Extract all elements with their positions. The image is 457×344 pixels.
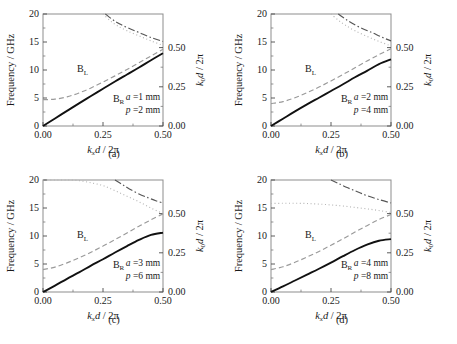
panel-a: 051015200.000.250.500.000.250.50Frequenc… bbox=[0, 0, 228, 170]
y-tick-label: 10 bbox=[29, 230, 39, 241]
x-tick-label: 0.00 bbox=[34, 295, 52, 306]
y-axis-label: Frequency / GHz bbox=[5, 34, 16, 107]
curve-band-dotted bbox=[43, 180, 163, 214]
y-tick-label: 5 bbox=[34, 92, 39, 103]
y-tick-label: 15 bbox=[29, 202, 39, 213]
y2-tick-label: 0.50 bbox=[396, 42, 414, 53]
y-tick-label: 15 bbox=[257, 36, 267, 47]
plot-d: 051015200.000.250.500.000.250.50Frequenc… bbox=[228, 166, 456, 336]
y2-tick-label: 0.00 bbox=[396, 286, 414, 297]
curve-label-bl: BL bbox=[305, 229, 316, 242]
curve-band-dashdot bbox=[338, 14, 391, 41]
y-tick-label: 5 bbox=[34, 258, 39, 269]
panel-caption-b: (b) bbox=[228, 148, 456, 159]
curve-label-br: BR bbox=[113, 93, 125, 106]
y2-tick-label: 0.25 bbox=[168, 247, 186, 258]
y2-axis-label: k0d / 2π bbox=[422, 219, 435, 252]
figure-bottom-caption bbox=[0, 336, 457, 344]
y-tick-label: 20 bbox=[257, 174, 267, 185]
curve-label-bl: BL bbox=[77, 229, 88, 242]
x-tick-label: 0.25 bbox=[322, 129, 340, 140]
x-tick-label: 0.25 bbox=[94, 295, 112, 306]
y-tick-label: 10 bbox=[257, 230, 267, 241]
y-tick-label: 15 bbox=[257, 202, 267, 213]
y-tick-label: 20 bbox=[29, 8, 39, 19]
plot-b: 051015200.000.250.500.000.250.50Frequenc… bbox=[228, 0, 456, 170]
y-tick-label: 10 bbox=[257, 64, 267, 75]
curve-B_R bbox=[43, 53, 163, 126]
param-p-label: p =2 mm bbox=[125, 105, 161, 115]
y-tick-label: 20 bbox=[257, 8, 267, 19]
curve-band-dotted bbox=[331, 14, 391, 46]
curve-band-dashdot bbox=[105, 14, 163, 41]
x-tick-label: 0.00 bbox=[34, 129, 52, 140]
y2-tick-label: 0.50 bbox=[168, 42, 186, 53]
plot-c: 051015200.000.250.500.000.250.50Frequenc… bbox=[0, 166, 228, 336]
plot-a: 051015200.000.250.500.000.250.50Frequenc… bbox=[0, 0, 228, 170]
y2-tick-label: 0.25 bbox=[396, 81, 414, 92]
y-tick-label: 20 bbox=[29, 174, 39, 185]
x-tick-label: 0.00 bbox=[262, 295, 280, 306]
panel-c: 051015200.000.250.500.000.250.50Frequenc… bbox=[0, 166, 228, 336]
param-a-label: a =3 mm bbox=[126, 258, 161, 268]
y2-tick-label: 0.00 bbox=[168, 286, 186, 297]
y2-tick-label: 0.25 bbox=[396, 247, 414, 258]
y2-tick-label: 0.00 bbox=[168, 120, 186, 131]
param-p-label: p =4 mm bbox=[353, 105, 389, 115]
panel-caption-a: (a) bbox=[0, 148, 228, 159]
y2-axis-label: k0d / 2π bbox=[194, 53, 207, 86]
panel-b: 051015200.000.250.500.000.250.50Frequenc… bbox=[228, 0, 456, 170]
y-axis-label: Frequency / GHz bbox=[233, 200, 244, 273]
panel-d: 051015200.000.250.500.000.250.50Frequenc… bbox=[228, 166, 456, 336]
y-tick-label: 10 bbox=[29, 64, 39, 75]
param-p-label: p =8 mm bbox=[353, 271, 389, 281]
y-axis-label: Frequency / GHz bbox=[233, 34, 244, 107]
y2-axis-label: k0d / 2π bbox=[422, 53, 435, 86]
param-a-label: a =2 mm bbox=[354, 92, 389, 102]
param-p-label: p =6 mm bbox=[125, 271, 161, 281]
x-tick-label: 0.00 bbox=[262, 129, 280, 140]
y-axis-label: Frequency / GHz bbox=[5, 200, 16, 273]
curve-label-br: BR bbox=[341, 259, 353, 272]
curve-label-bl: BL bbox=[77, 63, 88, 76]
figure-container: 051015200.000.250.500.000.250.50Frequenc… bbox=[0, 0, 457, 344]
y2-axis-label: k0d / 2π bbox=[194, 219, 207, 252]
y-tick-label: 5 bbox=[262, 258, 267, 269]
param-a-label: a =1 mm bbox=[126, 92, 161, 102]
y2-tick-label: 0.50 bbox=[168, 208, 186, 219]
y2-tick-label: 0.25 bbox=[168, 81, 186, 92]
panel-caption-c: (c) bbox=[0, 314, 228, 325]
param-a-label: a =4 mm bbox=[354, 258, 389, 268]
curve-label-bl: BL bbox=[305, 63, 316, 76]
x-tick-label: 0.25 bbox=[94, 129, 112, 140]
y-tick-label: 5 bbox=[262, 92, 267, 103]
curve-label-br: BR bbox=[341, 93, 353, 106]
y-tick-label: 15 bbox=[29, 36, 39, 47]
x-tick-label: 0.25 bbox=[322, 295, 340, 306]
curve-band-dotted bbox=[271, 203, 391, 212]
y2-tick-label: 0.50 bbox=[396, 208, 414, 219]
curve-label-br: BR bbox=[113, 259, 125, 272]
curve-band-dashdot bbox=[331, 180, 391, 203]
panel-caption-d: (d) bbox=[228, 314, 456, 325]
y2-tick-label: 0.00 bbox=[396, 120, 414, 131]
curve-band-dashdot bbox=[115, 180, 163, 203]
